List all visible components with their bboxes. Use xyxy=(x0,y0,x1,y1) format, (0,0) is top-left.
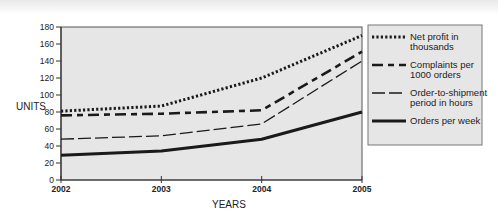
y-tick-label: 120 xyxy=(40,73,54,83)
x-tick-label: 2004 xyxy=(252,184,271,194)
x-axis-title: YEARS xyxy=(212,199,246,210)
y-tick-label: 140 xyxy=(40,56,54,66)
y-tick-label: 20 xyxy=(45,158,55,168)
x-tick-label: 2003 xyxy=(152,184,171,194)
y-tick-label: 180 xyxy=(40,22,54,32)
plot-area xyxy=(61,27,362,180)
y-axis-title: UNITS xyxy=(16,101,46,112)
legend-label: Orders per week xyxy=(410,115,480,126)
legend-label: period in hours xyxy=(410,97,473,108)
y-tick-label: 40 xyxy=(45,141,55,151)
legend-label: 1000 orders xyxy=(410,69,461,80)
y-tick-label: 160 xyxy=(40,39,54,49)
x-tick-label: 2005 xyxy=(353,184,372,194)
line-chart: 020406080100120140160180 200220032004200… xyxy=(0,0,498,220)
legend: Net profit inthousandsComplaints per1000… xyxy=(368,25,487,145)
y-tick-label: 100 xyxy=(40,90,54,100)
y-tick-label: 60 xyxy=(45,124,55,134)
legend-label: thousands xyxy=(410,41,454,52)
x-tick-label: 2002 xyxy=(52,184,71,194)
